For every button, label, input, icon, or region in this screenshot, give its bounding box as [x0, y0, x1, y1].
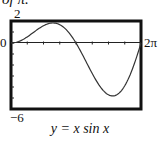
x-max-label: 2π — [144, 36, 157, 49]
function-curve — [11, 23, 141, 96]
x-min-label: 0 — [0, 36, 7, 49]
y-max-label: 2 — [14, 7, 21, 20]
chart-caption: y = x sin x — [0, 121, 160, 137]
